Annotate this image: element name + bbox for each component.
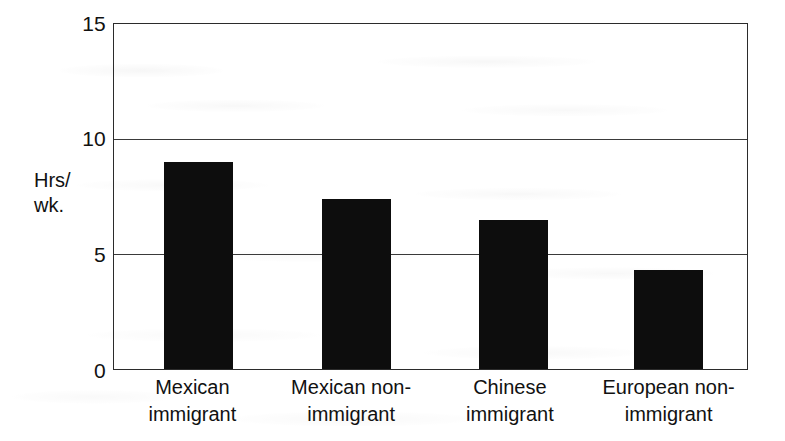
y-axis-title: Hrs/ wk. [34,168,108,218]
x-label-chinese-immigrant: Chinese immigrant [431,374,590,436]
x-label-mexican-immigrant: Mexican immigrant [113,374,272,436]
y-tick-label-0: 0 [66,360,106,381]
bar-mexican-immigrant [164,162,233,369]
y-axis-title-line-2: wk. [34,193,108,218]
y-tick-label-15: 15 [66,13,106,34]
y-tick-label-10: 10 [66,128,106,149]
x-label-line-1: Mexican [115,374,270,401]
x-label-mexican-non-immigrant: Mexican non- immigrant [272,374,431,436]
x-label-line-2: immigrant [433,401,588,428]
x-label-line-1: Chinese [433,374,588,401]
x-label-european-non-immigrant: European non- immigrant [589,374,748,436]
x-axis-category-labels: Mexican immigrant Mexican non- immigrant… [113,374,748,436]
gridline-5 [114,139,747,140]
x-label-line-1: European non- [591,374,746,401]
x-label-line-2: immigrant [115,401,270,428]
bar-chinese-immigrant [479,220,548,370]
x-label-line-1: Mexican non- [274,374,429,401]
y-axis-title-line-1: Hrs/ [34,168,108,193]
y-axis-tick-labels: 15 10 5 0 [58,0,106,441]
y-tick-label-5: 5 [66,244,106,265]
x-label-line-2: immigrant [274,401,429,428]
bar-chart-figure: 15 10 5 0 Hrs/ wk. Mexican immigrant Mex… [0,0,785,441]
bar-mexican-non-immigrant [322,199,391,369]
x-label-line-2: immigrant [591,401,746,428]
bar-european-non-immigrant [634,270,703,369]
plot-area [113,23,748,370]
